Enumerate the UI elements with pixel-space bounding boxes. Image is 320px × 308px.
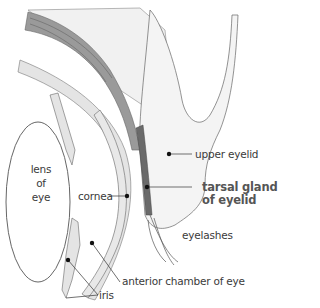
dot-cornea	[125, 194, 129, 198]
label-cornea: cornea	[78, 190, 113, 202]
label-lens-line1: lens	[26, 163, 56, 175]
dot-anterior-chamber	[90, 241, 94, 245]
dot-tarsal-gland	[145, 185, 149, 189]
label-eyelashes: eyelashes	[182, 229, 233, 241]
label-tarsal-gland-line2: of eyelid	[202, 194, 277, 207]
dot-upper-eyelid	[167, 152, 171, 156]
label-lens-of-eye: lens of eye	[26, 163, 56, 203]
label-lens-line2: of	[26, 177, 56, 189]
label-lens-line3: eye	[26, 191, 56, 203]
label-iris: iris	[99, 289, 114, 301]
label-upper-eyelid: upper eyelid	[195, 148, 258, 160]
dot-iris	[66, 258, 70, 262]
label-anterior-chamber: anterior chamber of eye	[122, 275, 245, 287]
label-tarsal-gland: tarsal gland of eyelid	[202, 181, 277, 207]
